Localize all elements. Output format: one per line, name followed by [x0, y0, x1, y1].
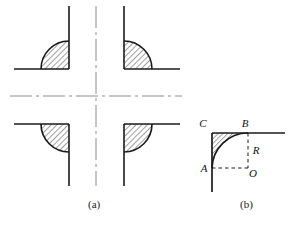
point-label-C: C — [199, 117, 207, 129]
technical-drawing-svg: C B R A O — [0, 0, 297, 227]
fillet-bottom-left — [14, 124, 69, 186]
centerlines — [10, 6, 182, 186]
point-label-A: A — [200, 162, 208, 174]
panel-b: C B R A O — [199, 117, 285, 192]
figure-container: C B R A O (a) (b) — [0, 0, 297, 227]
radius-label-R: R — [252, 144, 260, 156]
caption-panel-a: (a) — [88, 198, 100, 210]
caption-panel-b: (b) — [240, 198, 253, 210]
panel-a — [10, 6, 182, 186]
point-label-O: O — [249, 167, 257, 179]
fillet-bottom-right — [124, 124, 180, 186]
point-label-B: B — [242, 117, 249, 129]
fillet-top-left — [14, 6, 69, 69]
fillet-top-right — [124, 6, 180, 69]
